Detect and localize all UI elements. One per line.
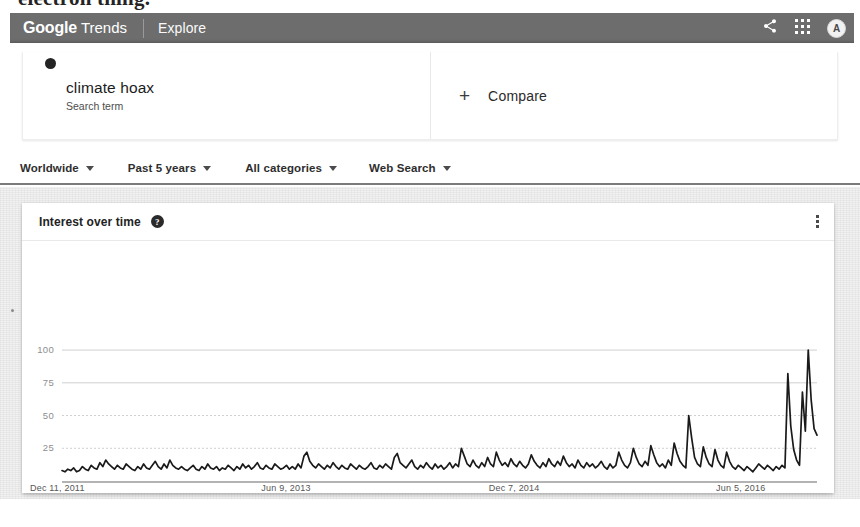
filter-search-type-label: Web Search (369, 162, 436, 174)
x-axis-tick: Dec 7, 2014 (489, 483, 540, 493)
appbar-right-edge (854, 13, 860, 43)
chevron-down-icon (329, 166, 337, 171)
add-compare-button[interactable]: + Compare (430, 52, 837, 139)
card-title: Interest over time (39, 215, 141, 229)
interest-over-time-line-chart[interactable] (22, 241, 834, 493)
chevron-down-icon (86, 166, 94, 171)
filter-location-label: Worldwide (20, 162, 79, 174)
filter-category[interactable]: All categories (245, 162, 337, 174)
chart-plot-area: 255075100 Dec 11, 2011Jun 9, 2013Dec 7, … (22, 241, 834, 493)
plus-icon: + (459, 86, 470, 105)
x-axis-tick: Jun 5, 2016 (716, 483, 765, 493)
x-axis-tick: Jun 9, 2013 (261, 483, 310, 493)
y-axis-tick: 100 (26, 344, 54, 355)
y-axis-tick: 75 (26, 377, 54, 388)
filter-location[interactable]: Worldwide (20, 162, 94, 174)
appbar-divider (143, 19, 144, 38)
nav-explore[interactable]: Explore (158, 20, 206, 36)
filter-time-range[interactable]: Past 5 years (128, 162, 211, 174)
search-term-type: Search term (66, 99, 154, 114)
search-term-label: climate hoax (66, 78, 154, 97)
x-axis-tick: Dec 11, 2011 (30, 483, 85, 493)
card-header: Interest over time ? (22, 203, 834, 241)
share-icon[interactable] (762, 18, 778, 38)
chevron-down-icon (443, 166, 451, 171)
appbar-actions: A (762, 18, 860, 38)
google-trends-logo[interactable]: Google Trends (10, 19, 127, 37)
chevron-down-icon (203, 166, 211, 171)
y-axis-tick: 25 (26, 442, 54, 453)
search-terms-row: climate hoax Search term + Compare (22, 52, 838, 140)
more-vertical-icon[interactable] (816, 215, 819, 228)
filter-bar: Worldwide Past 5 years All categories We… (0, 152, 860, 185)
filter-time-range-label: Past 5 years (128, 162, 196, 174)
interest-over-time-card: Interest over time ? 255075100 Dec 11, 2… (22, 203, 834, 493)
search-term-card[interactable]: climate hoax Search term (23, 52, 430, 139)
filter-search-type[interactable]: Web Search (369, 162, 451, 174)
filter-category-label: All categories (245, 162, 322, 174)
y-axis-tick: 50 (26, 410, 54, 421)
apps-grid-icon[interactable] (795, 19, 810, 38)
help-question-icon[interactable]: ? (151, 215, 164, 228)
scan-clipped-text: electron thing. (0, 0, 860, 13)
avatar[interactable]: A (827, 19, 846, 38)
scan-margin-speck (11, 309, 14, 312)
logo-trends: Trends (81, 19, 127, 36)
logo-google: Google (23, 19, 77, 37)
series-color-dot (45, 58, 56, 69)
compare-label: Compare (488, 88, 547, 104)
app-bar: Google Trends Explore A (10, 13, 860, 43)
